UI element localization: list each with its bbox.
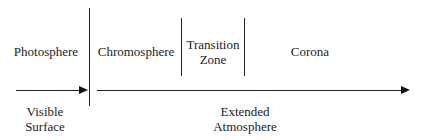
surface-divider-line xyxy=(89,8,90,106)
visible-surface-arrow-shaft xyxy=(16,90,80,91)
transition-zone-line-1: Transition xyxy=(182,37,244,52)
visible-surface-line-2: Surface xyxy=(10,119,80,134)
visible-surface-line-1: Visible xyxy=(10,104,80,119)
extended-atmosphere-arrow-shaft xyxy=(97,90,402,91)
extended-atmosphere-line-1: Extended xyxy=(200,104,290,119)
region-photosphere-label: Photosphere xyxy=(5,44,87,59)
region-corona-label: Corona xyxy=(260,44,360,59)
transition-zone-line-2: Zone xyxy=(182,52,244,67)
arrowhead-icon xyxy=(401,86,410,94)
visible-surface-label: Visible Surface xyxy=(10,104,80,134)
arrowhead-icon xyxy=(79,86,88,94)
extended-atmosphere-line-2: Atmosphere xyxy=(200,119,290,134)
region-chromosphere-label: Chromosphere xyxy=(92,44,180,59)
extended-atmosphere-label: Extended Atmosphere xyxy=(200,104,290,134)
region-transition-zone-label: Transition Zone xyxy=(182,37,244,67)
transition-corona-divider xyxy=(244,18,245,76)
